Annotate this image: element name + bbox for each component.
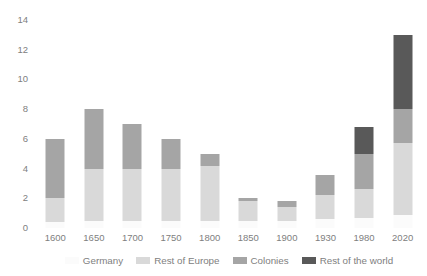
bar-slot xyxy=(190,20,229,228)
bar-stack[interactable] xyxy=(316,175,335,228)
bar-slot xyxy=(36,20,75,228)
chart-legend: GermanyRest of EuropeColoniesRest of the… xyxy=(36,251,422,269)
bar-segment[interactable] xyxy=(46,222,65,228)
bar-stack[interactable] xyxy=(239,198,258,228)
y-axis: 14121086420 xyxy=(0,20,32,228)
x-axis-tick-label: 1850 xyxy=(229,231,268,247)
bar-stack[interactable] xyxy=(393,35,412,228)
y-axis-tick-label: 2 xyxy=(23,193,28,203)
bar-segment[interactable] xyxy=(393,143,412,214)
bar-segment[interactable] xyxy=(393,109,412,143)
bar-slot xyxy=(75,20,114,228)
x-axis-tick-label: 1600 xyxy=(36,231,75,247)
bar-stack[interactable] xyxy=(84,109,103,228)
bar-slot xyxy=(306,20,345,228)
x-axis-tick-label: 1900 xyxy=(268,231,307,247)
bar-slot xyxy=(268,20,307,228)
bar-slot xyxy=(229,20,268,228)
x-axis-tick-label: 1980 xyxy=(345,231,384,247)
y-axis-tick-label: 10 xyxy=(17,74,28,84)
bar-slot xyxy=(383,20,422,228)
bar-segment[interactable] xyxy=(123,124,142,169)
bar-segment[interactable] xyxy=(355,127,374,154)
bar-segment[interactable] xyxy=(393,35,412,109)
legend-item[interactable]: Rest of Europe xyxy=(136,255,219,266)
x-axis: 1600165017001750180018501900193019802020 xyxy=(36,231,422,247)
bar-stack[interactable] xyxy=(200,154,219,228)
bar-segment[interactable] xyxy=(162,169,181,221)
bar-segment[interactable] xyxy=(355,154,374,190)
bar-segment[interactable] xyxy=(200,166,219,221)
y-axis-tick-label: 14 xyxy=(17,15,28,25)
bar-segment[interactable] xyxy=(200,221,219,228)
x-axis-tick-label: 1930 xyxy=(306,231,345,247)
y-axis-tick-label: 4 xyxy=(23,164,28,174)
bar-segment[interactable] xyxy=(84,169,103,221)
legend-item[interactable]: Germany xyxy=(65,255,123,266)
bar-segment[interactable] xyxy=(162,221,181,228)
bar-segment[interactable] xyxy=(316,219,335,228)
bar-segment[interactable] xyxy=(316,195,335,219)
bar-segment[interactable] xyxy=(355,189,374,217)
bar-segment[interactable] xyxy=(123,169,142,221)
legend-swatch-icon xyxy=(136,257,150,264)
bar-slot xyxy=(113,20,152,228)
bar-slot xyxy=(345,20,384,228)
bar-segment[interactable] xyxy=(162,139,181,169)
y-axis-tick-label: 8 xyxy=(23,104,28,114)
legend-swatch-icon xyxy=(233,257,247,264)
y-axis-tick-label: 12 xyxy=(17,45,28,55)
bar-group xyxy=(36,20,422,228)
bar-stack[interactable] xyxy=(162,139,181,228)
bar-segment[interactable] xyxy=(239,201,258,220)
plot-area xyxy=(36,20,422,228)
bar-segment[interactable] xyxy=(84,221,103,228)
legend-item[interactable]: Rest of the world xyxy=(302,255,394,266)
x-axis-tick-label: 1650 xyxy=(75,231,114,247)
bar-segment[interactable] xyxy=(316,175,335,196)
stacked-bar-chart: 14121086420 1600165017001750180018501900… xyxy=(0,0,427,276)
bar-segment[interactable] xyxy=(46,198,65,222)
legend-label: Germany xyxy=(83,255,123,266)
legend-swatch-icon xyxy=(65,257,79,264)
bar-segment[interactable] xyxy=(200,154,219,166)
legend-swatch-icon xyxy=(302,257,316,264)
bar-segment[interactable] xyxy=(46,139,65,198)
bar-segment[interactable] xyxy=(393,215,412,228)
bar-segment[interactable] xyxy=(239,221,258,228)
y-axis-tick-label: 0 xyxy=(23,223,28,233)
bar-segment[interactable] xyxy=(277,207,296,220)
legend-label: Rest of the world xyxy=(320,255,394,266)
bar-stack[interactable] xyxy=(123,124,142,228)
bar-stack[interactable] xyxy=(355,127,374,228)
x-axis-tick-label: 2020 xyxy=(383,231,422,247)
bar-segment[interactable] xyxy=(123,221,142,228)
y-axis-tick-label: 6 xyxy=(23,134,28,144)
bar-segment[interactable] xyxy=(277,221,296,228)
bar-segment[interactable] xyxy=(355,218,374,228)
legend-item[interactable]: Colonies xyxy=(233,255,289,266)
bar-slot xyxy=(152,20,191,228)
x-axis-tick-label: 1750 xyxy=(152,231,191,247)
legend-label: Rest of Europe xyxy=(154,255,219,266)
bar-segment[interactable] xyxy=(84,109,103,168)
bar-stack[interactable] xyxy=(46,139,65,228)
x-axis-tick-label: 1700 xyxy=(113,231,152,247)
bar-stack[interactable] xyxy=(277,201,296,228)
x-axis-tick-label: 1800 xyxy=(190,231,229,247)
legend-label: Colonies xyxy=(251,255,289,266)
